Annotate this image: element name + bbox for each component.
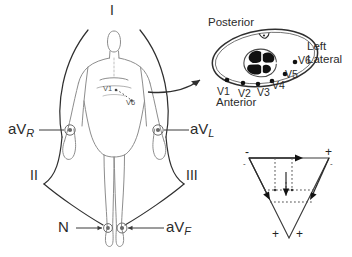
label-torso-v1: V1: [103, 85, 112, 93]
resultant-vector-head: [283, 188, 289, 196]
lead-III-vector-head: [310, 192, 317, 200]
lead-II-arc: [44, 137, 62, 184]
label-posterior: Posterior: [208, 16, 254, 28]
label-lateral: Lateral: [307, 53, 342, 65]
avf-text: aV: [166, 218, 184, 235]
label-v6: V6: [298, 55, 311, 66]
lead-I-arc-right: [140, 30, 168, 137]
heart-cross-section: [244, 49, 279, 77]
lead-I-vector-head: [295, 155, 303, 162]
cross-section-pointer-arrow: [148, 80, 202, 93]
einthoven-triangle: [249, 155, 329, 238]
avf-subscript: F: [184, 225, 191, 237]
sign-top-right: +: [325, 146, 332, 159]
label-neutral: N: [58, 219, 69, 235]
avl-text: aV: [190, 120, 208, 137]
label-left: Left: [307, 40, 326, 52]
label-avf: aVF: [166, 219, 191, 235]
body-outline: [63, 31, 166, 247]
triangle-outline: [249, 158, 329, 238]
label-v4: V4: [272, 80, 285, 91]
avr-subscript: R: [26, 127, 34, 139]
sign-bottom-left: +: [272, 228, 279, 241]
lead-II-vector-head: [263, 191, 270, 200]
sign-top-left: -: [245, 146, 249, 159]
sign-bottom-right: +: [296, 228, 303, 241]
label-v2: V2: [238, 88, 251, 99]
label-lead-I: I: [110, 3, 114, 18]
dot-V1: [225, 78, 230, 83]
lead-I-arc-left: [60, 30, 88, 137]
sign-upper-left-inner: -: [243, 160, 246, 169]
label-avl: aVL: [190, 121, 214, 137]
electrode-right-leg-neutral: [104, 224, 113, 233]
label-avr: aVR: [8, 121, 34, 137]
label-v5: V5: [285, 69, 298, 80]
label-v3: V3: [257, 87, 270, 98]
label-torso-v6: V6: [126, 99, 135, 107]
lead-II-lower: [44, 184, 103, 225]
avr-text: aV: [8, 120, 26, 137]
lead-III-arc: [166, 137, 184, 184]
dot-V2: [241, 81, 246, 86]
label-v1: V1: [217, 86, 230, 97]
label-lead-III: III: [186, 168, 198, 183]
sign-upper-right-inner: -: [330, 160, 333, 169]
label-lead-II: II: [30, 168, 38, 183]
dot-V6: [293, 60, 298, 65]
avl-subscript: L: [208, 127, 214, 139]
ecg-lead-placement-figure: I II III aVR aVL aVF N V1 V6 Posterior A…: [0, 0, 352, 257]
